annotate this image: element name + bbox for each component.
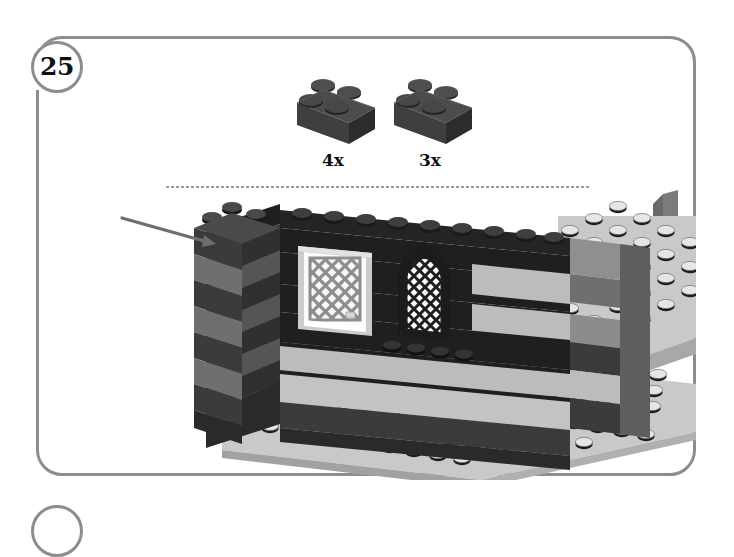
part-quantity-label-1: 4x	[303, 150, 363, 170]
callout-leader-line	[120, 214, 216, 248]
brick-2x2-icon	[283, 78, 388, 148]
leader-line-icon	[120, 214, 216, 248]
square-window	[298, 246, 372, 336]
step-number-badge: 25	[31, 41, 83, 93]
model-illustration	[150, 188, 696, 480]
model-assembly-drawing	[150, 188, 696, 480]
brick-2x2-icon	[380, 78, 485, 148]
wall-right-end	[620, 244, 650, 438]
next-step-badge	[31, 505, 83, 557]
step-number-label: 25	[40, 54, 74, 79]
part-callout-brick-1	[283, 78, 388, 148]
part-callout-brick-2	[380, 78, 485, 148]
part-quantity-label-2: 3x	[400, 150, 460, 170]
